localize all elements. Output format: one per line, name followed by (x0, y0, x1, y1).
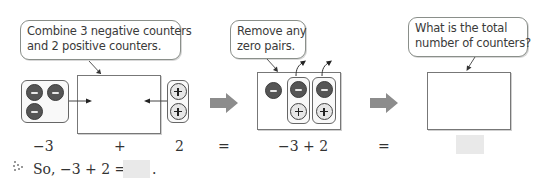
label-equals: = (218, 138, 230, 154)
arrow-right-icon (69, 97, 93, 105)
label-equals: = (378, 138, 390, 154)
bubble-text-line2: zero pairs. (237, 39, 299, 54)
speech-bubble-remove: Remove any zero pairs. (230, 20, 306, 59)
zero-pair-mat (257, 72, 341, 130)
arrow-left-icon (143, 97, 168, 105)
conclusion-period: . (152, 161, 156, 177)
remove-arrow-icon (319, 59, 333, 77)
negative-counter (316, 81, 333, 98)
bubble-text-line1: Combine 3 negative counters (27, 24, 174, 39)
dots-marker-icon (12, 160, 26, 174)
negative-counter (47, 84, 64, 101)
bubble-text-line2: number of counters? (415, 36, 521, 51)
negative-counter-group (21, 80, 69, 123)
speech-bubble-combine: Combine 3 negative counters and 2 positi… (20, 20, 181, 60)
positive-counter (316, 103, 333, 120)
remove-arrow-icon (293, 59, 307, 77)
zero-pair-group (312, 77, 336, 124)
big-arrow-right-icon (370, 93, 400, 113)
negative-counter (26, 84, 43, 101)
answer-blank-box[interactable] (456, 135, 484, 154)
negative-counter (26, 103, 43, 120)
pointer-arrow-icon (463, 55, 479, 73)
label-plus: + (114, 138, 126, 154)
conclusion-text: So, −3 + 2 = (33, 161, 126, 177)
label-left-operand: −3 (33, 138, 54, 154)
bubble-text-line2: and 2 positive counters. (27, 39, 174, 54)
bubble-text-line1: Remove any (237, 24, 299, 39)
conclusion-answer-box[interactable] (123, 160, 150, 178)
positive-counter (290, 103, 307, 120)
negative-counter (290, 81, 307, 98)
positive-counter-group (167, 80, 189, 123)
negative-counter (265, 82, 282, 99)
positive-counter (170, 103, 187, 120)
big-arrow-right-icon (210, 93, 240, 113)
bubble-text-line1: What is the total (415, 21, 521, 36)
positive-counter (170, 83, 187, 100)
label-expression: −3 + 2 (278, 138, 328, 154)
label-right-operand: 2 (175, 138, 184, 154)
zero-pair-group (287, 77, 310, 124)
speech-bubble-total: What is the total number of counters? (408, 17, 528, 57)
total-mat (427, 72, 511, 130)
